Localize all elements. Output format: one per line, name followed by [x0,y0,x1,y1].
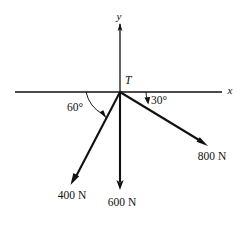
angle-30-label: 30° [151,94,168,106]
force-diagram: x y T 60° 30° 400 N 600 N 800 N [0,0,249,226]
force-800n-label: 800 N [198,150,227,162]
origin-label-t: T [125,74,133,86]
force-600n-label: 600 N [108,196,137,208]
angle-30-arc-arrowhead [144,97,150,104]
force-diagram-canvas: x y T 60° 30° 400 N 600 N 800 N [0,0,249,226]
angle-60-arc [86,92,103,114]
x-axis-label: x [227,84,233,96]
angle-60-label: 60° [67,101,84,113]
force-400n-label: 400 N [58,189,87,201]
angle-60-arc-arrowhead [100,110,107,118]
y-axis-label: y [116,10,122,22]
